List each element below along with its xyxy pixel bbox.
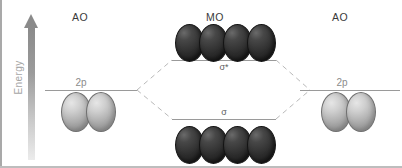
orbital-lobe-sigma-4 (247, 126, 276, 164)
figure-left-border (0, 0, 2, 168)
orbital-lobe-ao-right-2 (346, 92, 376, 132)
label-2p-right: 2p (322, 77, 362, 88)
corr-line-right-antibonding (276, 60, 310, 90)
corr-line-left-antibonding (137, 60, 172, 90)
level-line-sigma (172, 119, 276, 120)
corr-line-right-bonding (276, 90, 310, 119)
energy-axis-label: Energy (13, 48, 24, 108)
label-2p-left: 2p (61, 77, 101, 88)
level-line-ao-left (45, 90, 137, 91)
heading-ao-left: AO (50, 11, 110, 23)
label-sigma-star: σ* (204, 62, 244, 72)
level-line-ao-right (300, 90, 400, 91)
figure-bottom-border (0, 166, 402, 168)
energy-arrow-shaft (28, 26, 35, 160)
orbital-lobe-ao-left-2 (86, 92, 116, 132)
heading-mo: MO (185, 11, 245, 23)
heading-ao-right: AO (310, 11, 370, 23)
corr-line-left-bonding (137, 90, 172, 119)
mo-diagram-figure: Energy AO MO AO 2p 2p σ* σ (0, 0, 402, 168)
orbital-lobe-sigma-star-4 (247, 24, 276, 62)
label-sigma: σ (204, 107, 244, 117)
